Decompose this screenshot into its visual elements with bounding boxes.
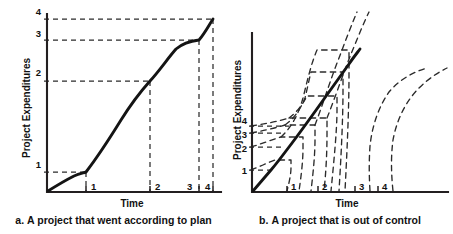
x-axis-title-b: Time [335, 198, 359, 209]
actual-expenditure-curve-a [48, 19, 213, 191]
y-tick-label-2-b: 2 [242, 143, 247, 154]
y-tick-label-4-a: 4 [36, 6, 42, 17]
y-tick-label-1-a: 1 [36, 159, 42, 170]
x-tick-labels-a: 1 2 3 4 [91, 181, 211, 192]
trailing-branch-c-b [369, 68, 427, 191]
chart-panel-b: Project Expenditures [227, 0, 453, 234]
chart-svg-a: Project Expenditures [0, 0, 227, 210]
chart-panel-a: Project Expenditures [0, 0, 227, 234]
x-tick-label-3-b: 3 [359, 181, 364, 192]
x-tick-label-2-a: 2 [155, 181, 160, 192]
caption-text-b: A project that is out of control [271, 214, 421, 226]
y-tick-labels-b: 4 3 2 1 [242, 115, 248, 176]
x-tick-label-1-a: 1 [91, 181, 97, 192]
vertical-guides-a [86, 19, 213, 191]
y-tick-label-3-b: 3 [242, 129, 247, 140]
plan-escalation-step-2-b [285, 72, 343, 191]
x-tick-label-4-b: 4 [382, 181, 388, 192]
caption-letter-a: a. [15, 214, 24, 226]
plan-revision-curves-b [251, 12, 447, 191]
chart-svg-b: Project Expenditures [227, 0, 453, 210]
y-tick-label-3-a: 3 [36, 28, 41, 39]
runaway-branch-a-b [315, 12, 357, 125]
y-tick-label-4-b: 4 [242, 115, 248, 126]
x-tick-label-4-a: 4 [205, 181, 211, 192]
caption-text-a: A project that went according to plan [27, 214, 212, 226]
caption-letter-b: b. [259, 214, 268, 226]
x-axis-title-a: Time [120, 198, 144, 209]
y-axis-title-a: Project Expenditures [21, 58, 32, 158]
caption-b: b.A project that is out of control [227, 214, 453, 226]
x-tick-label-1-b: 1 [291, 181, 297, 192]
y-tick-label-1-b: 1 [242, 165, 248, 176]
trailing-branch-d-b [392, 68, 448, 191]
plan-escalation-step-1-b [289, 96, 337, 191]
y-tick-label-2-a: 2 [36, 67, 41, 78]
x-tick-label-3-a: 3 [187, 181, 192, 192]
x-tick-label-2-b: 2 [322, 181, 327, 192]
caption-a: a.A project that went according to plan [0, 214, 227, 226]
y-tick-labels-a: 4 3 2 1 [36, 6, 42, 170]
figure-root: Project Expenditures [0, 0, 453, 234]
